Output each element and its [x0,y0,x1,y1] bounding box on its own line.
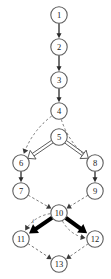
node-8-circle[interactable] [87,155,103,171]
edge-3-to-4 [57,88,62,102]
node-4[interactable]: 4 [51,103,67,119]
edge-2-to-3 [57,55,62,71]
node-13[interactable]: 13 [51,256,67,272]
edge-8-to-9 [93,171,98,182]
edge-11-to-13 [28,244,52,260]
node-12[interactable]: 12 [87,231,103,247]
node-9-circle[interactable] [87,183,103,199]
node-5-circle[interactable] [51,129,67,145]
node-3[interactable]: 3 [51,72,67,88]
node-8[interactable]: 8 [87,155,103,171]
edge-label-layer: i [32,218,34,224]
edge-label-i: i [32,218,34,224]
node-10[interactable]: 10 [51,205,67,221]
graph-canvas: 12345678910111213 i [0,0,111,279]
node-6-circle[interactable] [13,155,29,171]
node-3-circle[interactable] [51,72,67,88]
edge-12-to-13 [66,244,88,259]
node-6[interactable]: 6 [13,155,29,171]
edge-7-to-10 [28,195,51,209]
node-13-circle[interactable] [51,256,67,272]
node-11-circle[interactable] [13,231,29,247]
node-2-circle[interactable] [51,39,67,55]
node-1-circle[interactable] [51,7,67,23]
edge-5-to-8 [65,141,89,159]
node-11[interactable]: 11 [13,231,29,247]
node-9[interactable]: 9 [87,183,103,199]
edge-1-to-2 [57,23,62,38]
node-7[interactable]: 7 [13,183,29,199]
node-layer: 12345678910111213 [13,7,103,272]
edge-4-to-6 [23,116,52,154]
node-4-circle[interactable] [51,103,67,119]
graph-diagram: 12345678910111213 i [0,0,111,279]
node-1[interactable]: 1 [51,7,67,23]
node-2[interactable]: 2 [51,39,67,55]
node-7-circle[interactable] [13,183,29,199]
edge-9-to-10 [67,195,88,208]
edge-5-to-6 [28,140,53,159]
edge-6-to-7 [19,171,24,182]
edge-10-to-12 [66,218,87,234]
node-10-circle[interactable] [51,205,67,221]
node-5[interactable]: 5 [51,129,67,145]
node-12-circle[interactable] [87,231,103,247]
